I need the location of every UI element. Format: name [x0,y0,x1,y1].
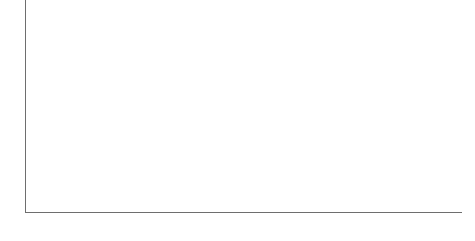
plot-area [26,0,475,213]
x-axis-line [25,212,462,213]
y-axis-line [25,0,26,213]
horizontal-bar-chart [0,0,475,241]
